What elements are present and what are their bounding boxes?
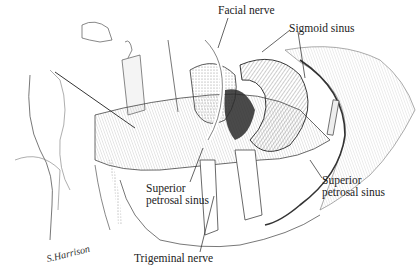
label-superior-petrosal-sinus-right: Superior petrosal sinus [322,174,385,198]
label-facial-nerve: Facial nerve [218,4,275,16]
label-line-2: petrosal sinus [322,186,385,198]
label-sigmoid-sinus: Sigmoid sinus [289,22,355,34]
label-superior-petrosal-sinus-left: Superior petrosal sinus [146,182,209,206]
label-line-1: Superior [146,182,209,194]
anatomy-drawing [0,0,420,276]
label-line-1: Superior [322,174,385,186]
illustration: Facial nerve Sigmoid sinus Superior petr… [0,0,420,276]
label-line-2: petrosal sinus [146,194,209,206]
label-trigeminal-nerve: Trigeminal nerve [134,252,213,264]
